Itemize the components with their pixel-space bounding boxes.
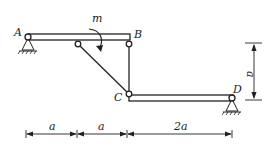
diagonal-link [78,44,129,94]
label-a: A [13,26,22,39]
pin-b [126,41,132,47]
dim-label-2: a [98,120,105,133]
frame-diagram: A B C D m a a a 2a [0,0,277,150]
beam-ab [28,34,130,40]
beam-cd [129,95,233,101]
label-c: C [114,91,123,104]
dim-label-1: a [49,120,56,133]
label-moment: m [92,12,102,25]
horizontal-dimensions: a a 2a [26,120,232,138]
pin-c [126,91,132,97]
vertical-dimension: a [244,43,262,100]
dim-label-3: 2a [173,120,188,133]
label-d: D [232,83,242,96]
pin-diagonal-top [75,41,81,47]
vertical-dim-label: a [244,71,257,78]
label-b: B [133,28,142,41]
